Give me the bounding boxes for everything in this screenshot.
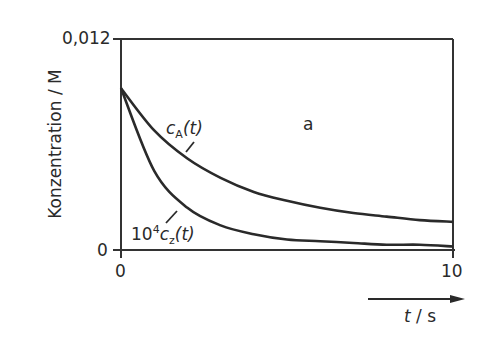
ca-leader <box>186 142 194 152</box>
x-axis-unit: / s <box>411 306 436 326</box>
cz-leader <box>166 211 177 223</box>
x-arrow-head <box>450 295 465 303</box>
x-tick-label-ten: 10 <box>441 261 463 281</box>
chart-canvas <box>0 0 487 340</box>
x-axis-label: t / s <box>404 306 436 326</box>
y-tick-label-zero: 0 <box>97 240 108 260</box>
ca-label: cA(t) <box>166 118 203 141</box>
panel-label: a <box>303 114 313 134</box>
curve-ca <box>121 88 453 222</box>
y-axis-label: Konzentration / M <box>45 59 65 229</box>
cz-label: 104cz(t) <box>131 223 195 247</box>
x-tick-label-zero: 0 <box>115 261 126 281</box>
y-tick-label-top: 0,012 <box>62 28 111 48</box>
x-axis-var: t <box>404 306 411 326</box>
